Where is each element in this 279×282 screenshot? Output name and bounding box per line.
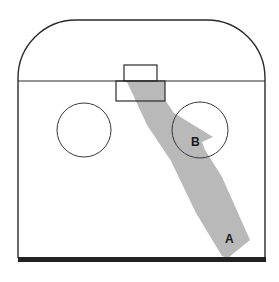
left-circle [57,103,111,157]
label-b: B [191,135,200,149]
court-diagram: B A [0,0,279,282]
goal-box [124,65,157,81]
baseline [18,257,266,262]
label-a: A [225,232,234,246]
